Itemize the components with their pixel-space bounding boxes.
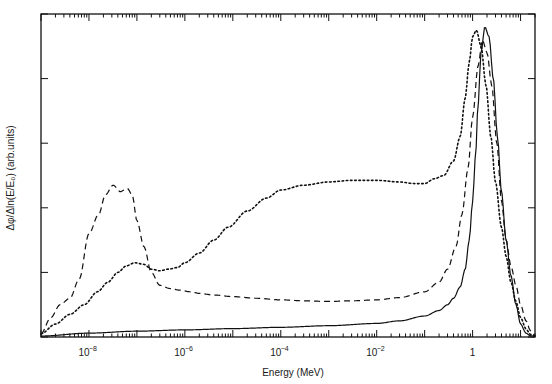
x-tick-label: 10−8 [78, 345, 97, 358]
svg-text:−4: −4 [281, 345, 289, 352]
y-axis-title: Δφ/Δln(E/E₀) (arb.units) [5, 125, 16, 230]
svg-text:−8: −8 [89, 345, 97, 352]
curve-dashed [41, 40, 535, 335]
curve-dotted [41, 30, 535, 336]
figure-container: 10−810−610−410−21 Energy (MeV) Δφ/Δln(E/… [0, 0, 552, 384]
svg-text:−6: −6 [185, 345, 193, 352]
x-tick-label: 10−2 [366, 345, 385, 358]
svg-text:1: 1 [470, 347, 476, 358]
x-tick-label: 10−4 [270, 345, 289, 358]
x-tick-label: 10−6 [174, 345, 193, 358]
x-axis-title: Energy (MeV) [262, 367, 324, 378]
x-tick-label: 1 [470, 347, 476, 358]
svg-text:−2: −2 [377, 345, 385, 352]
plot-frame [41, 14, 535, 337]
axis-titles: Energy (MeV) Δφ/Δln(E/E₀) (arb.units) [5, 125, 324, 378]
data-curves [41, 28, 535, 337]
x-tick-labels: 10−810−610−410−21 [78, 345, 475, 358]
axis-ticks [41, 14, 535, 337]
curve-solid [41, 28, 535, 337]
plot-svg: 10−810−610−410−21 Energy (MeV) Δφ/Δln(E/… [0, 0, 552, 384]
